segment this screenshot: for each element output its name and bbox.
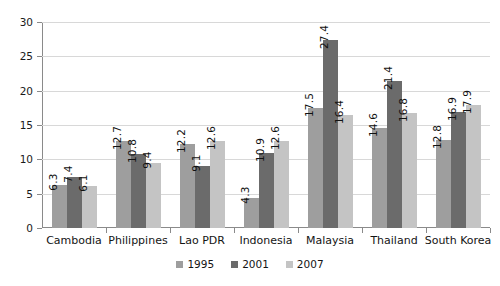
- bar: 6.3: [52, 185, 67, 228]
- bar-value-label: 10.8: [126, 139, 138, 163]
- bar-value-label: 7.4: [62, 166, 74, 183]
- bar-value-label: 17.9: [461, 90, 473, 114]
- x-axis-category-label: Indonesia: [239, 234, 292, 247]
- legend-item: 2007: [286, 258, 324, 270]
- bar-value-label: 16.4: [333, 100, 345, 124]
- bar: 9.1: [195, 166, 210, 228]
- x-axis-category-label: Malaysia: [306, 234, 354, 247]
- bar: 17.9: [466, 105, 481, 228]
- y-axis-label: 25: [20, 50, 33, 62]
- x-axis-category-label: Lao PDR: [179, 234, 225, 247]
- bar-value-label: 21.4: [382, 66, 394, 90]
- bar: 6.1: [82, 186, 97, 228]
- bar: 12.6: [274, 141, 289, 228]
- y-axis-label: 10: [20, 153, 33, 165]
- y-axis-label: 0: [26, 222, 33, 234]
- legend-swatch: [176, 261, 183, 268]
- bar: 12.8: [436, 140, 451, 228]
- bar: 10.9: [259, 153, 274, 228]
- x-axis-category-label: Thailand: [370, 234, 417, 247]
- bar-value-label: 12.6: [205, 126, 217, 150]
- legend-item: 2001: [231, 258, 269, 270]
- x-axis-tick: [298, 228, 299, 233]
- y-axis-tick: [37, 228, 42, 229]
- legend-label: 1995: [187, 258, 214, 270]
- legend-label: 2001: [242, 258, 269, 270]
- x-axis-category-label: Philippines: [108, 234, 167, 247]
- bar: 16.9: [451, 112, 466, 228]
- bar-cluster: 12.29.112.6: [170, 22, 234, 228]
- bar-value-label: 12.6: [269, 126, 281, 150]
- bar-cluster: 6.37.46.1: [42, 22, 106, 228]
- x-axis-tick: [170, 228, 171, 233]
- legend-swatch: [231, 261, 238, 268]
- bar-value-label: 6.1: [77, 174, 89, 191]
- bar-value-label: 9.4: [141, 152, 153, 169]
- legend-swatch: [286, 261, 293, 268]
- bar-value-label: 16.9: [446, 97, 458, 121]
- bar: 9.4: [146, 163, 161, 228]
- y-axis-label: 20: [20, 85, 33, 97]
- bar-value-label: 6.3: [47, 173, 59, 190]
- bar-cluster: 12.710.89.4: [106, 22, 170, 228]
- bar-value-label: 14.6: [367, 113, 379, 137]
- bar-cluster: 4.310.912.6: [234, 22, 298, 228]
- bar-value-label: 12.7: [111, 126, 123, 150]
- x-axis-tick: [234, 228, 235, 233]
- bar-cluster: 14.621.416.8: [362, 22, 426, 228]
- bar-value-label: 10.9: [254, 138, 266, 162]
- bar-value-label: 16.8: [397, 98, 409, 122]
- plot-area: 0510152025306.37.46.112.710.89.412.29.11…: [42, 22, 490, 228]
- bar-value-label: 9.1: [190, 154, 202, 171]
- y-axis-label: 5: [26, 188, 33, 200]
- x-axis-tick: [362, 228, 363, 233]
- x-axis-category-label: Cambodia: [46, 234, 102, 247]
- bar-chart: 0510152025306.37.46.112.710.89.412.29.11…: [0, 0, 500, 286]
- bar: 16.8: [402, 113, 417, 228]
- bar-cluster: 17.527.416.4: [298, 22, 362, 228]
- y-axis-label: 15: [20, 119, 33, 131]
- bar: 14.6: [372, 128, 387, 228]
- bar-value-label: 4.3: [239, 187, 251, 204]
- y-axis-label: 30: [20, 16, 33, 28]
- bar: 16.4: [338, 115, 353, 228]
- x-axis-category-label: South Korea: [425, 234, 492, 247]
- bar-value-label: 17.5: [303, 93, 315, 117]
- bar-value-label: 12.2: [175, 129, 187, 153]
- bar: 27.4: [323, 40, 338, 228]
- legend-label: 2007: [297, 258, 324, 270]
- bar-cluster: 12.816.917.9: [426, 22, 490, 228]
- x-axis-tick: [106, 228, 107, 233]
- legend-item: 1995: [176, 258, 214, 270]
- x-axis-tick: [490, 228, 491, 233]
- chart-legend: 199520012007: [0, 258, 500, 270]
- bar-value-label: 27.4: [318, 25, 330, 49]
- bar: 17.5: [308, 108, 323, 228]
- bar: 4.3: [244, 198, 259, 228]
- x-axis-tick: [426, 228, 427, 233]
- bar: 12.6: [210, 141, 225, 228]
- bar-value-label: 12.8: [431, 125, 443, 149]
